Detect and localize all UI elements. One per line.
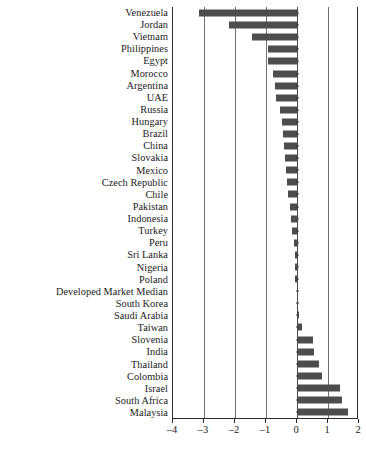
row-tick-mark (296, 375, 299, 376)
row-tick-mark (296, 303, 299, 304)
row-tick-mark (296, 121, 299, 122)
bar (280, 106, 297, 113)
row-tick-mark (296, 170, 299, 171)
category-label: Malaysia (0, 407, 172, 419)
category-label: Slovenia (0, 334, 172, 346)
bar (252, 34, 297, 41)
row-tick-mark (296, 206, 299, 207)
category-label: Slovakia (0, 153, 172, 165)
row-tick-mark (296, 218, 299, 219)
category-label: Poland (0, 274, 172, 286)
bar-row (173, 92, 357, 104)
bar-row (173, 201, 357, 213)
row-tick-mark (296, 37, 299, 38)
bar (297, 372, 322, 379)
bar-row (173, 285, 357, 297)
row-tick-mark (296, 254, 299, 255)
bar-row (173, 321, 357, 333)
axis-tick-label: 0 (293, 423, 298, 437)
bar-row (173, 152, 357, 164)
row-tick-mark (296, 279, 299, 280)
bar-row (173, 164, 357, 176)
bar-row (173, 370, 357, 382)
category-label: Taiwan (0, 322, 172, 334)
category-label: Argentina (0, 80, 172, 92)
x-axis-tick-labels: –4–3–2–1012 (172, 423, 358, 441)
row-tick-mark (296, 49, 299, 50)
bar (199, 10, 297, 17)
bar-row (173, 116, 357, 128)
axis-tick-label: –3 (198, 423, 209, 437)
category-label: Philippines (0, 43, 172, 55)
row-tick-mark (296, 363, 299, 364)
category-label: Vietnam (0, 31, 172, 43)
category-label: Developed Market Median (0, 286, 172, 298)
bar (276, 94, 297, 101)
bar (275, 82, 297, 89)
row-tick-mark (296, 133, 299, 134)
category-label: Israel (0, 383, 172, 395)
bar-row (173, 213, 357, 225)
category-label: Indonesia (0, 213, 172, 225)
bar (273, 70, 297, 77)
axis-tick-label: –4 (167, 423, 178, 437)
bar (282, 118, 298, 125)
axis-tick-label: 1 (324, 423, 329, 437)
category-label: Czech Republic (0, 177, 172, 189)
bar-row (173, 188, 357, 200)
horizontal-bar-chart: VenezuelaJordanVietnamPhilippinesEgyptMo… (0, 0, 366, 459)
row-tick-mark (296, 267, 299, 268)
category-label: South Korea (0, 298, 172, 310)
bar-row (173, 176, 357, 188)
category-label: Jordan (0, 19, 172, 31)
row-tick-mark (296, 387, 299, 388)
bar (297, 360, 319, 367)
bar (297, 384, 340, 391)
plot-area (172, 7, 358, 419)
bar-row (173, 394, 357, 406)
bar-row (173, 334, 357, 346)
bar-row (173, 406, 357, 418)
bar (297, 336, 313, 343)
bar-row (173, 382, 357, 394)
row-tick-mark (296, 291, 299, 292)
axis-tick-label: –2 (229, 423, 240, 437)
bar-row (173, 249, 357, 261)
bar (297, 397, 342, 404)
bar-row (173, 225, 357, 237)
category-label: Brazil (0, 128, 172, 140)
row-tick-mark (296, 242, 299, 243)
bar-row (173, 19, 357, 31)
bar-row (173, 43, 357, 55)
bar-row (173, 309, 357, 321)
category-label: Turkey (0, 225, 172, 237)
category-label: Mexico (0, 165, 172, 177)
row-tick-mark (296, 25, 299, 26)
bar (297, 409, 348, 416)
row-tick-mark (296, 146, 299, 147)
category-label: UAE (0, 92, 172, 104)
category-label: Pakistan (0, 201, 172, 213)
category-label: Hungary (0, 116, 172, 128)
category-label: South Africa (0, 395, 172, 407)
row-tick-mark (296, 158, 299, 159)
bar (297, 348, 314, 355)
bar-row (173, 80, 357, 92)
category-label: Chile (0, 189, 172, 201)
row-tick-mark (296, 13, 299, 14)
row-tick-mark (296, 315, 299, 316)
bar-row (173, 104, 357, 116)
category-label: Peru (0, 237, 172, 249)
category-label: China (0, 140, 172, 152)
row-tick-mark (296, 230, 299, 231)
row-tick-mark (296, 339, 299, 340)
bar-row (173, 237, 357, 249)
category-label: Egypt (0, 56, 172, 68)
row-tick-mark (296, 327, 299, 328)
bar-row (173, 297, 357, 309)
bar-row (173, 140, 357, 152)
bar-row (173, 128, 357, 140)
category-label: Colombia (0, 371, 172, 383)
bar-row (173, 346, 357, 358)
row-tick-mark (296, 194, 299, 195)
